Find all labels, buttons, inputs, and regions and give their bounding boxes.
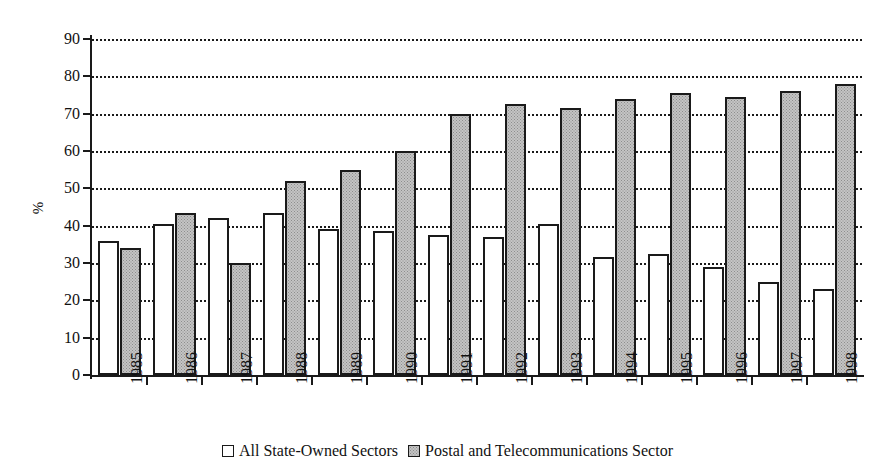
- bar: [813, 289, 834, 375]
- y-tick-label: 80: [44, 68, 80, 84]
- x-axis-label: 1997: [788, 328, 806, 384]
- legend-entry: All State-Owned Sectors: [222, 442, 398, 460]
- y-tick-label: 60: [44, 143, 80, 159]
- x-tick: [146, 377, 148, 385]
- bar: [758, 282, 779, 375]
- x-tick: [421, 377, 423, 385]
- x-axis-label: 1986: [183, 328, 201, 384]
- x-tick: [311, 377, 313, 385]
- y-tick-label: 20: [44, 292, 80, 308]
- y-tick: [83, 262, 92, 264]
- y-tick: [83, 299, 92, 301]
- y-tick-label: 90: [44, 31, 80, 47]
- y-tick-label: 70: [44, 106, 80, 122]
- bar: [538, 224, 559, 375]
- legend-swatch-icon: [408, 445, 420, 457]
- bar: [263, 213, 284, 375]
- x-tick: [476, 377, 478, 385]
- y-tick-label: 30: [44, 255, 80, 271]
- bar: [703, 267, 724, 375]
- x-axis-label: 1987: [238, 328, 256, 384]
- x-axis-label: 1989: [348, 328, 366, 384]
- x-axis-label: 1991: [458, 328, 476, 384]
- x-tick: [366, 377, 368, 385]
- y-tick: [83, 113, 92, 115]
- chart-legend: All State-Owned SectorsPostal and Teleco…: [0, 442, 895, 460]
- gridline: [92, 151, 862, 153]
- x-axis-label: 1996: [733, 328, 751, 384]
- gridline: [92, 76, 862, 78]
- y-tick-label: 50: [44, 180, 80, 196]
- gridline: [92, 114, 862, 116]
- y-tick: [83, 337, 92, 339]
- bar: [593, 257, 614, 375]
- y-axis-title: %: [26, 196, 50, 220]
- x-tick: [586, 377, 588, 385]
- plot-area: 0102030405060708090: [92, 39, 862, 375]
- y-tick-label: 40: [44, 218, 80, 234]
- x-tick: [696, 377, 698, 385]
- bar: [648, 254, 669, 375]
- x-tick: [256, 377, 258, 385]
- legend-entry: Postal and Telecommunications Sector: [408, 442, 673, 460]
- x-axis-label: 1990: [403, 328, 421, 384]
- x-tick: [531, 377, 533, 385]
- x-axis-label: 1998: [843, 328, 861, 384]
- x-axis-label: 1988: [293, 328, 311, 384]
- legend-label: Postal and Telecommunications Sector: [425, 442, 673, 460]
- x-tick: [201, 377, 203, 385]
- y-tick-label: 0: [44, 367, 80, 383]
- x-axis-label: 1994: [623, 328, 641, 384]
- y-tick: [83, 75, 92, 77]
- bar: [483, 237, 504, 375]
- y-axis-line: [90, 35, 92, 379]
- bar-chart: % 0102030405060708090 198519861987198819…: [0, 0, 895, 472]
- bar: [153, 224, 174, 375]
- bar: [318, 229, 339, 375]
- x-axis-label: 1993: [568, 328, 586, 384]
- gridline: [92, 188, 862, 190]
- y-tick-label: 10: [44, 330, 80, 346]
- gridline: [92, 39, 862, 41]
- legend-label: All State-Owned Sectors: [239, 442, 398, 460]
- bar: [373, 231, 394, 375]
- legend-swatch-icon: [222, 445, 234, 457]
- bar: [98, 241, 119, 375]
- x-tick: [806, 377, 808, 385]
- x-tick: [751, 377, 753, 385]
- bar: [208, 218, 229, 375]
- x-tick: [641, 377, 643, 385]
- x-axis-label: 1995: [678, 328, 696, 384]
- y-tick: [83, 150, 92, 152]
- x-axis-label: 1985: [128, 328, 146, 384]
- bar: [428, 235, 449, 375]
- x-axis-label: 1992: [513, 328, 531, 384]
- y-tick: [83, 225, 92, 227]
- y-tick: [83, 187, 92, 189]
- y-tick: [83, 38, 92, 40]
- y-tick: [83, 374, 92, 376]
